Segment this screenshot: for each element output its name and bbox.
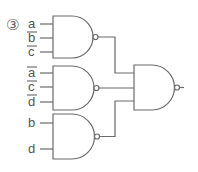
problem-number: ③ — [6, 16, 19, 34]
nand-gate-2 — [53, 66, 99, 110]
input-label-d: d — [28, 141, 35, 156]
logic-circuit-diagram: ③ a b c a c d b d — [0, 0, 198, 172]
input-label-b: b — [28, 115, 35, 130]
interconnect-wires — [98, 37, 134, 137]
nand-gate-3 — [53, 114, 100, 159]
nand-gate-4-output — [134, 65, 184, 110]
gate3-inputs: b d — [28, 115, 53, 156]
gate1-inputs: a b c — [27, 16, 53, 59]
input-label-a: a — [28, 16, 36, 31]
inversion-bubble — [175, 85, 180, 90]
inversion-bubble — [93, 35, 98, 40]
input-label-d-bar: d — [28, 94, 35, 109]
inversion-bubble — [95, 134, 100, 139]
inversion-bubble — [94, 86, 99, 91]
nand-gate-1 — [53, 16, 98, 58]
gate2-inputs: a c d — [27, 65, 53, 109]
